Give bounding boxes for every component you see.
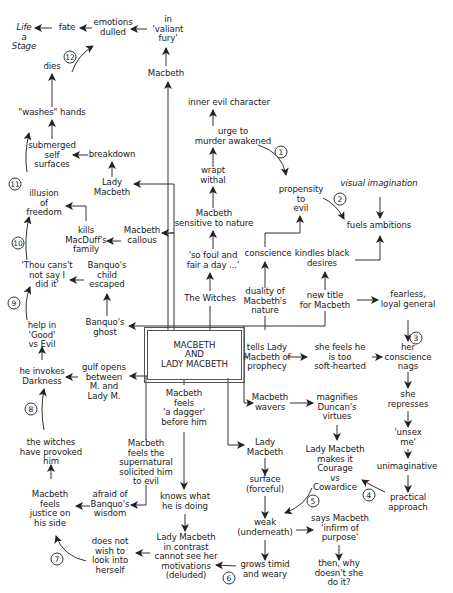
node-he-invokes: he invokes Darkness [19,367,64,386]
node-gulf-opens: gulf opens between M. and Lady M. [82,363,126,401]
node-macbeth-top: Macbeth [148,69,184,79]
node-lady-courage: Lady Macbeth makes it Courage vs Cowardi… [305,445,364,493]
node-tells-lady: tells Lady Macbeth of prophecy [244,343,291,372]
node-conscience: conscience [245,249,292,259]
node-macbeth-dagger: Macbeth feels 'a dagger' before him [161,389,207,427]
node-lady-macbeth-left: Lady Macbeth [94,178,130,197]
step-number-12: 12 [64,51,77,64]
step-number-6: 6 [223,572,236,585]
step-number-5: 5 [307,495,320,508]
node-submerged-self: submerged self surfaces [28,141,76,170]
node-unimaginative: unimaginative [377,462,437,472]
step-number-4: 4 [363,489,376,502]
node-banquo-child: Banquo's child escaped [88,261,127,290]
step-number-3: 3 [410,332,423,345]
node-fearless-general: fearless, loyal general [381,290,435,309]
node-her-conscience: her conscience nags [385,343,432,372]
node-duality-nature: duality of Macbeth's nature [244,287,287,316]
node-inner-evil: inner evil character [188,98,270,108]
macbeth-concept-map: MACBETH AND LADY MACBETH Life a Stage fa… [0,0,453,593]
node-fate: fate [59,23,76,33]
node-she-feels: she feels he is too soft-hearted [314,343,366,372]
node-witches-provoked: the witches have provoked him [20,438,82,467]
node-fuels-ambitions: fuels ambitions [347,221,411,231]
central-title-box: MACBETH AND LADY MACBETH [147,330,242,380]
node-washes-hands: "washes" hands [18,108,85,118]
node-dies: dies [43,62,60,72]
node-breakdown: breakdown [89,150,136,160]
node-macbeth-callous: Macbeth callous [124,226,160,245]
node-afraid-banquo: afraid of Banquo's wisdom [91,490,130,519]
node-wrapt-withal: wrapt withal [200,166,225,185]
step-number-1: 1 [275,146,288,159]
node-practical-approach: practical approach [388,493,427,512]
node-emotions-dulled: emotions dulled [93,18,132,37]
node-so-foul: 'so foul and fair a day ...' [187,251,240,270]
node-valiant-fury: in 'valiant fury' [153,15,184,44]
node-kills-macduff: kills MacDuff's family [65,226,106,255]
node-supernatural: Macbeth feels the supernatural solicited… [119,439,173,487]
node-macbeth-sensitive: Macbeth sensitive to nature [175,209,254,228]
step-number-11: 11 [9,178,22,191]
node-then-why: then, why doesn't she do it? [315,559,364,588]
node-illusion-freedom: illusion of freedom [26,189,61,218]
node-new-title: new title for Macbeth [300,291,350,310]
node-macbeth-justice: Macbeth feels justice on his side [30,490,71,528]
node-she-represses: she represses [388,390,429,409]
step-number-10: 10 [12,237,25,250]
node-urge-murder: urge to murder awakened [195,127,271,146]
node-weak-underneath: weak (underneath) [237,518,292,537]
node-lady-macbeth-center: Lady Macbeth [247,438,283,457]
node-thou-canst: 'Thou cans't not say I did it' [22,261,73,290]
node-magnifies-duncan: magnifies Duncan's virtues [316,393,357,422]
node-the-witches: The Witches [184,294,236,304]
node-grows-timid: grows timid and weary [240,560,289,579]
step-number-7: 7 [51,553,64,566]
node-life-stage: Life a Stage [12,23,36,52]
step-number-2: 2 [334,193,347,206]
node-macbeth-wavers: Macbeth wavers [252,393,288,412]
step-number-9: 9 [8,297,21,310]
node-surface-forceful: surface (forceful) [246,475,284,494]
step-number-8: 8 [25,403,38,416]
node-visual-imagination: visual imagination [340,179,417,189]
node-help-good-evil: help in 'Good' vs Evil [28,321,56,350]
node-propensity-evil: propensity to evil [279,185,324,214]
node-banquo-ghost: Banquo's ghost [86,318,125,337]
node-does-not-wish: does not wish to look into herself [92,537,128,575]
node-unsex-me: 'unsex me' [394,428,421,447]
node-knows-what: knows what he is doing [160,492,210,511]
node-says-infirm: says Macbeth 'infirm of purpose' [311,514,369,543]
node-kindles-desires: kindles black desires [295,249,350,268]
node-lady-contrast: Lady Macbeth in contrast cannot see her … [155,533,218,581]
